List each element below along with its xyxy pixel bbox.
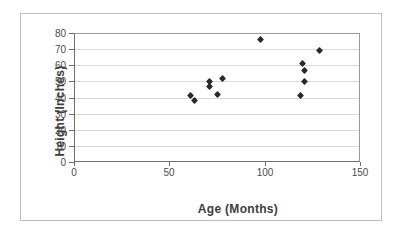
y-tick-mark: [69, 33, 74, 34]
y-tick-label: 20: [36, 125, 66, 136]
y-tick-mark: [69, 49, 74, 50]
y-tick-label: 80: [36, 28, 66, 39]
x-tick-label: 100: [250, 167, 280, 178]
y-gridline: [75, 65, 359, 66]
y-gridline: [75, 81, 359, 82]
scatter-chart: Height (Inches) Age (Months) 01020304050…: [0, 0, 400, 235]
y-gridline: [75, 114, 359, 115]
y-tick-mark: [69, 146, 74, 147]
x-tick-mark: [74, 162, 75, 166]
x-tick-mark: [265, 162, 266, 166]
y-tick-mark: [69, 130, 74, 131]
y-tick-label: 10: [36, 141, 66, 152]
y-gridline: [75, 146, 359, 147]
y-tick-label: 50: [36, 76, 66, 87]
x-tick-label: 50: [154, 167, 184, 178]
y-tick-mark: [69, 65, 74, 66]
x-tick-mark: [169, 162, 170, 166]
y-tick-label: 70: [36, 44, 66, 55]
y-tick-label: 40: [36, 93, 66, 104]
y-tick-mark: [69, 98, 74, 99]
y-tick-mark: [69, 81, 74, 82]
y-tick-mark: [69, 114, 74, 115]
y-tick-label: 30: [36, 109, 66, 120]
x-axis-title: Age (Months): [95, 202, 381, 216]
y-gridline: [75, 130, 359, 131]
x-tick-mark: [360, 162, 361, 166]
y-tick-label: 60: [36, 60, 66, 71]
x-tick-label: 150: [345, 167, 375, 178]
x-tick-label: 0: [59, 167, 89, 178]
